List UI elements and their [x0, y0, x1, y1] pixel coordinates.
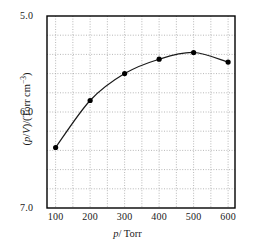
- y-axis-title-p: p: [21, 137, 32, 142]
- x-tick-label-400: 400: [149, 211, 169, 222]
- data-point: [226, 59, 231, 64]
- x-tick-label-300: 300: [115, 211, 135, 222]
- x-tick-label-500: 500: [184, 211, 204, 222]
- data-point: [157, 57, 162, 62]
- chart-figure: 7.0 6.0 5.0 100 200 300 400 500 600 p/ T…: [0, 0, 255, 249]
- data-point: [88, 98, 93, 103]
- data-point: [122, 71, 127, 76]
- y-axis-title-units: )/(Torr cm: [21, 84, 32, 127]
- y-axis-title-v: V: [21, 127, 32, 133]
- data-point: [191, 50, 196, 55]
- y-tick-label-top: 7.0: [20, 202, 33, 213]
- x-tick-label-200: 200: [80, 211, 100, 222]
- y-tick-label-bottom: 5.0: [20, 10, 33, 21]
- x-axis-title-units: / Torr: [118, 228, 141, 239]
- x-axis-title: p/ Torr: [0, 228, 255, 239]
- y-axis-title-close: ): [21, 73, 32, 77]
- x-tick-label-100: 100: [46, 211, 66, 222]
- y-axis-title-slash: /: [21, 134, 32, 137]
- y-axis-title-exponent: −3: [19, 76, 28, 84]
- data-point: [53, 145, 58, 150]
- y-axis-title: (p/V)/(Torr cm−3): [16, 29, 34, 189]
- y-axis-title-open: (: [21, 142, 32, 146]
- x-tick-label-600: 600: [218, 211, 238, 222]
